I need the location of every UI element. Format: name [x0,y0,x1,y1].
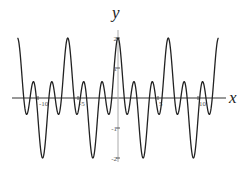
y-tick-label: -2 [111,155,117,163]
x-tick-label: 10 [199,100,207,108]
function-plot: -10-5510 21-1-2 x y [0,0,251,172]
x-axis-label: x [228,88,237,107]
y-tick-label: -1 [111,125,117,133]
y-axis-label: y [110,3,120,22]
x-tick-label: -10 [39,100,49,108]
